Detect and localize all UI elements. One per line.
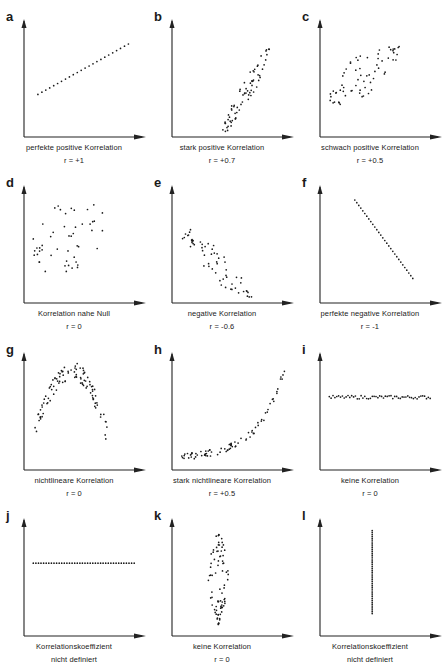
- y-axis-arrow-icon: [22, 19, 27, 28]
- data-point: [227, 449, 229, 451]
- data-point: [373, 395, 375, 397]
- data-point: [357, 79, 359, 81]
- data-point: [83, 385, 85, 387]
- data-point: [58, 562, 60, 564]
- data-point: [97, 562, 99, 564]
- data-point: [227, 119, 229, 121]
- data-point: [48, 397, 50, 399]
- data-point: [124, 45, 126, 47]
- scatter-panel-g: gnichtlineare Korrelationr = 0: [0, 333, 148, 499]
- data-point: [371, 577, 373, 579]
- data-point: [200, 241, 202, 243]
- data-point: [67, 372, 69, 374]
- data-point: [253, 433, 255, 435]
- data-point: [342, 395, 344, 397]
- data-point: [354, 199, 356, 201]
- data-point: [237, 442, 239, 444]
- data-point: [370, 397, 372, 399]
- y-axis-arrow-icon: [318, 185, 323, 194]
- data-point: [371, 547, 373, 549]
- data-point: [266, 54, 268, 56]
- data-point: [217, 614, 219, 616]
- scatter-panel-a: aperfekte positive Korrelationr = +1: [0, 0, 148, 166]
- data-point: [366, 75, 368, 77]
- data-point: [190, 454, 192, 456]
- data-point: [87, 562, 89, 564]
- y-axis-arrow-icon: [170, 518, 175, 527]
- data-point: [75, 261, 77, 263]
- data-point: [384, 240, 386, 242]
- data-point: [378, 232, 380, 234]
- data-point: [368, 93, 370, 95]
- data-point: [406, 269, 408, 271]
- data-point: [77, 264, 79, 266]
- data-point: [75, 226, 77, 228]
- data-point: [366, 215, 368, 217]
- data-point: [222, 570, 224, 572]
- data-point: [104, 56, 106, 58]
- data-point: [86, 385, 88, 387]
- data-point: [234, 441, 236, 443]
- data-point: [54, 378, 56, 380]
- data-point: [343, 397, 345, 399]
- data-point: [221, 538, 223, 540]
- data-point: [376, 229, 378, 231]
- panel-r-value: r = +0.5: [148, 489, 296, 498]
- data-point: [64, 226, 66, 228]
- data-point: [405, 396, 407, 398]
- data-point: [272, 398, 274, 400]
- data-point: [230, 444, 232, 446]
- data-point: [201, 247, 203, 249]
- data-point: [208, 579, 210, 581]
- data-point: [80, 378, 82, 380]
- data-point: [201, 455, 203, 457]
- data-point: [342, 75, 344, 77]
- x-axis-arrow-icon: [134, 135, 146, 140]
- data-point: [422, 395, 424, 397]
- data-point: [200, 451, 202, 453]
- data-point: [248, 432, 250, 434]
- data-point: [227, 130, 229, 132]
- data-point: [328, 396, 330, 398]
- data-point: [84, 562, 86, 564]
- panel-r-value: r = 0: [0, 489, 148, 498]
- panel-r-value: r = +0.5: [296, 156, 444, 165]
- data-point: [70, 235, 72, 237]
- data-point: [215, 572, 217, 574]
- data-point: [216, 547, 218, 549]
- data-point: [216, 618, 218, 620]
- data-point: [246, 290, 248, 292]
- y-axis-arrow-icon: [22, 185, 27, 194]
- data-point: [229, 116, 231, 118]
- data-point: [75, 368, 77, 370]
- data-point: [339, 103, 341, 105]
- data-point: [41, 91, 43, 93]
- data-point: [70, 207, 72, 209]
- x-axis-arrow-icon: [134, 634, 146, 639]
- data-point: [269, 403, 271, 405]
- data-point: [268, 48, 270, 50]
- data-point: [92, 397, 94, 399]
- data-point: [234, 112, 236, 114]
- data-point: [224, 448, 226, 450]
- data-point: [371, 530, 373, 532]
- data-point: [371, 592, 373, 594]
- data-point: [390, 248, 392, 250]
- data-point: [84, 372, 86, 374]
- data-point: [371, 566, 373, 568]
- data-point: [205, 453, 207, 455]
- data-point: [100, 59, 102, 61]
- data-point: [336, 396, 338, 398]
- scatter-panel-h: hstark nichtlineare Korrelationr = +0.5: [148, 333, 296, 499]
- panel-r-value: r = +1: [0, 156, 148, 165]
- data-point: [413, 398, 415, 400]
- data-point: [72, 233, 74, 235]
- data-point: [223, 587, 225, 589]
- data-point: [265, 59, 267, 61]
- data-point: [227, 579, 229, 581]
- data-point: [371, 571, 373, 573]
- data-point: [381, 60, 383, 62]
- scatter-plot: [296, 166, 444, 306]
- data-point: [374, 71, 376, 73]
- y-axis-arrow-icon: [318, 518, 323, 527]
